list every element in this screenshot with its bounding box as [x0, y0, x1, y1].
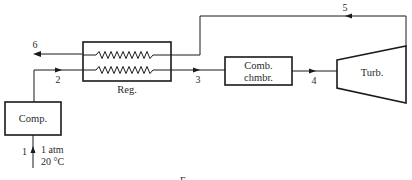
arrow-left-icon — [345, 14, 352, 19]
gas-turbine-cycle-diagram: 5 6 Reg. 2 3 Comb. chmbr. 4 — [0, 0, 412, 180]
state-label-6: 6 — [33, 39, 38, 50]
stream-5-line — [171, 14, 406, 56]
arrow-up-icon — [31, 146, 36, 153]
compressor-label: Comp. — [19, 113, 47, 124]
combustion-chamber-label-line1: Comb. — [244, 60, 272, 71]
arrow-right-icon — [55, 68, 62, 73]
stream-6-line — [33, 51, 82, 57]
figure-caption: F — [180, 175, 186, 180]
combustion-chamber-label-line2: chmbr. — [244, 72, 273, 83]
inlet-pressure-label: 1 atm — [41, 144, 64, 155]
regenerator-box — [83, 42, 171, 81]
inlet-temperature-label: 20 °C — [41, 156, 64, 167]
state-label-2: 2 — [56, 74, 61, 85]
stream-1-line — [31, 135, 36, 168]
arrow-right-icon — [309, 69, 316, 74]
arrow-left-icon — [33, 51, 41, 57]
state-label-5: 5 — [343, 2, 348, 13]
state-label-3: 3 — [196, 74, 201, 85]
stream-3-line — [171, 68, 225, 73]
regenerator-label: Reg. — [117, 84, 137, 95]
arrow-right-icon — [193, 68, 200, 73]
turbine-label: Turb. — [361, 67, 384, 78]
stream-4-line — [292, 69, 337, 74]
state-label-1: 1 — [22, 146, 27, 157]
state-label-4: 4 — [312, 75, 317, 86]
